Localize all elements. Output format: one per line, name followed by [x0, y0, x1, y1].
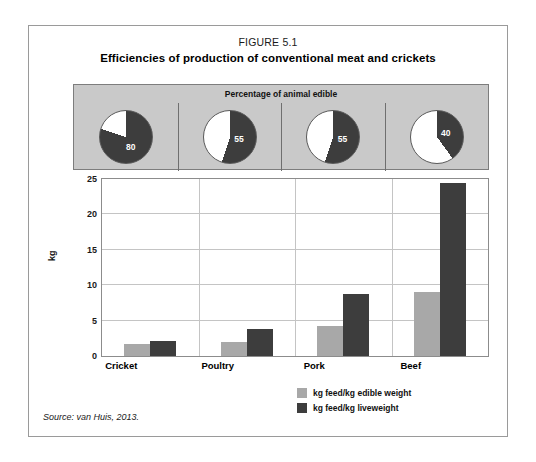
legend-item: kg feed/kg edible weight: [297, 388, 477, 398]
pie-chart-pork: 55: [281, 105, 385, 169]
bar-beef-series1: [414, 292, 440, 356]
bar-beef-series2: [440, 183, 466, 356]
y-axis-tick-label: 15: [71, 245, 97, 255]
y-axis-title: kg: [47, 250, 57, 261]
bar-pork-series1: [317, 326, 343, 356]
pie-value-label: 55: [338, 134, 347, 144]
category-divider: [295, 179, 296, 356]
bar-poultry-series2: [247, 329, 273, 356]
figure-title: Efficiencies of production of convention…: [29, 52, 507, 64]
category-divider: [392, 179, 393, 356]
pie-value-label: 40: [441, 128, 450, 138]
bar-cricket-series1: [124, 344, 150, 356]
bar-pork-series2: [343, 294, 369, 356]
legend-label: kg feed/kg edible weight: [313, 388, 411, 398]
pie-chart-poultry: 55: [178, 105, 282, 169]
pie-disc: [203, 110, 257, 164]
x-axis-label-poultry: Poultry: [170, 360, 266, 371]
pie-disc: [306, 110, 360, 164]
pie-value-label: 80: [126, 142, 135, 152]
y-axis-tick-label: 25: [71, 174, 97, 184]
pie-disc: [99, 110, 153, 164]
source-note: Source: van Huis, 2013.: [43, 412, 139, 422]
category-divider: [199, 179, 200, 356]
y-axis-tick-label: 20: [71, 209, 97, 219]
y-axis-tick-labels: 0510152025: [67, 178, 97, 357]
x-axis-label-beef: Beef: [363, 360, 459, 371]
pie-chart-beef: 40: [385, 105, 489, 169]
pie-panel: Percentage of animal edible 80555540: [73, 84, 489, 170]
legend-item: kg feed/kg liveweight: [297, 403, 477, 413]
y-axis-tick-label: 5: [71, 316, 97, 326]
plot-area: [101, 178, 489, 357]
figure-container: FIGURE 5.1 Efficiencies of production of…: [28, 25, 508, 437]
legend-swatch: [297, 388, 307, 398]
bar-cricket-series2: [150, 341, 176, 356]
y-axis-tick-label: 10: [71, 280, 97, 290]
x-axis-label-cricket: Cricket: [73, 360, 169, 371]
figure-number: FIGURE 5.1: [29, 36, 507, 48]
x-axis-label-pork: Pork: [266, 360, 362, 371]
pie-value-label: 55: [234, 134, 243, 144]
legend-label: kg feed/kg liveweight: [313, 403, 399, 413]
legend-swatch: [297, 403, 307, 413]
pie-panel-title: Percentage of animal edible: [74, 89, 488, 99]
bar-poultry-series1: [221, 342, 247, 356]
chart-legend: kg feed/kg edible weightkg feed/kg livew…: [297, 388, 477, 418]
pie-chart-cricket: 80: [74, 105, 178, 169]
pie-disc: [410, 110, 464, 164]
